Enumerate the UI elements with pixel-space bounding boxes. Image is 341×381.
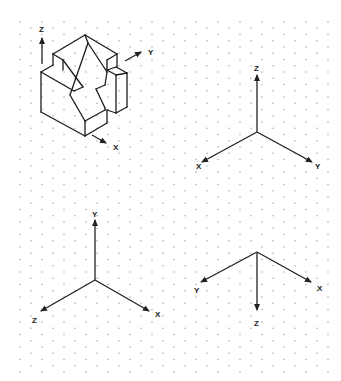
grid-dot [195,234,196,235]
grid-dot [52,203,53,204]
grid-dot [206,165,207,166]
grid-dot [118,128,119,129]
grid-dot [239,146,240,147]
grid-dot [272,315,273,316]
grid-dot [162,340,163,341]
grid-dot [96,265,97,266]
grid-dot [107,234,108,235]
grid-dot [250,178,251,179]
grid-dot [195,34,196,35]
grid-dot [118,65,119,66]
grid-dot [52,328,53,329]
grid-dot [228,65,229,66]
grid-dot [327,196,328,197]
object-edge [70,43,88,95]
grid-dot [272,228,273,229]
grid-dot [162,290,163,291]
grid-dot [19,21,20,22]
grid-dot [96,303,97,304]
grid-dot [294,28,295,29]
grid-dot [173,184,174,185]
grid-dot [30,140,31,141]
grid-dot [173,371,174,372]
grid-dot [228,90,229,91]
object-edge [107,67,116,70]
grid-dot [52,265,53,266]
grid-dot [195,284,196,285]
grid-dot [107,159,108,160]
grid-dot [30,353,31,354]
grid-dot [140,153,141,154]
axis-x-arrow [202,132,257,162]
grid-dot [327,221,328,222]
grid-dot [129,334,130,335]
grid-dot [195,21,196,22]
grid-dot [129,159,130,160]
grid-dot [184,203,185,204]
axis-x-arrow [257,252,311,282]
grid-dot [228,328,229,329]
grid-dot [63,271,64,272]
grid-dot [316,178,317,179]
grid-dot [118,165,119,166]
grid-dot [305,146,306,147]
grid-dot [305,259,306,260]
grid-dot [140,278,141,279]
grid-dot [250,353,251,354]
grid-dot [151,21,152,22]
grid-dot [173,96,174,97]
grid-dot [85,59,86,60]
object-edge [85,35,117,54]
grid-dot [261,346,262,347]
grid-dot [272,253,273,254]
grid-dot [107,271,108,272]
grid-dot [327,321,328,322]
grid-dot [228,103,229,104]
grid-dot [316,140,317,141]
grid-dot [173,71,174,72]
grid-dot [30,78,31,79]
grid-dot [140,228,141,229]
grid-dot [85,159,86,160]
object-edge [116,73,127,75]
grid-dot [173,121,174,122]
grid-dot [52,115,53,116]
grid-dot [30,28,31,29]
grid-dot [118,228,119,229]
grid-dot [140,28,141,29]
grid-dot [63,71,64,72]
grid-dot [239,184,240,185]
grid-dot [206,28,207,29]
grid-dot [74,115,75,116]
grid-dot [206,303,207,304]
grid-dot [327,59,328,60]
grid-dot [41,296,42,297]
grid-dot [96,353,97,354]
grid-dot [294,190,295,191]
grid-dot [239,221,240,222]
grid-dot [162,178,163,179]
grid-dot [206,240,207,241]
grid-dot [151,196,152,197]
grid-dot [195,359,196,360]
grid-dot [294,78,295,79]
grid-dot [107,321,108,322]
grid-dot [184,353,185,354]
grid-dot [118,240,119,241]
grid-dot [283,371,284,372]
grid-dot [239,71,240,72]
grid-dot [327,359,328,360]
grid-dot [217,246,218,247]
grid-dot [283,34,284,35]
grid-dot [151,34,152,35]
grid-dot [107,209,108,210]
grid-dot [52,315,53,316]
grid-dot [96,190,97,191]
grid-dot [261,296,262,297]
grid-dot [305,134,306,135]
grid-dot [129,184,130,185]
grid-dot [195,196,196,197]
grid-dot [107,96,108,97]
grid-dot [41,234,42,235]
grid-dot [30,65,31,66]
